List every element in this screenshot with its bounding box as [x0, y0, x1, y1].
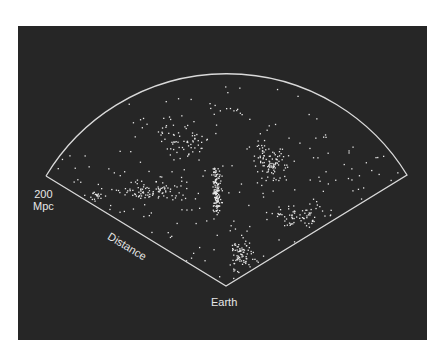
galaxy-points: [58, 86, 399, 279]
scale-label: 200 Mpc: [33, 188, 54, 212]
earth-origin-label: Earth: [211, 296, 237, 308]
scale-unit: Mpc: [33, 200, 54, 212]
survey-wedge-outline: [46, 74, 407, 286]
scale-value: 200: [33, 188, 54, 200]
